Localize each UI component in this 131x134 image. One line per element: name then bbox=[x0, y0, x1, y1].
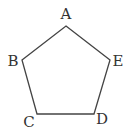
pentagon-shape bbox=[22, 26, 110, 114]
vertex-label-d: D bbox=[96, 110, 108, 128]
vertex-label-c: C bbox=[23, 113, 34, 131]
pentagon-diagram: A B C D E bbox=[0, 0, 131, 134]
vertex-label-e: E bbox=[113, 52, 124, 70]
vertex-label-a: A bbox=[60, 5, 72, 23]
vertex-label-b: B bbox=[7, 52, 18, 70]
